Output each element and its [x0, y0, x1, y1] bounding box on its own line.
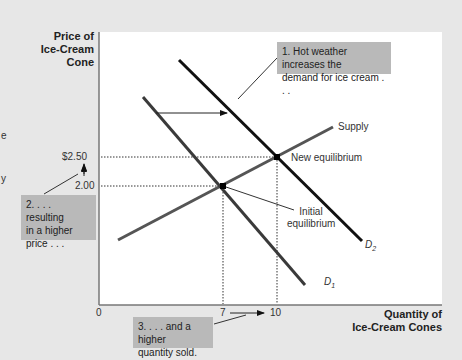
y-title-line: Ice-Cream [20, 43, 94, 56]
figure: Price of Ice-Cream Cone Quantity of Ice-… [0, 0, 462, 360]
callout-higher-quantity: 3. . . . and a higher quantity sold. [133, 317, 213, 348]
demand-curve-d1 [143, 97, 305, 285]
callout1-leader [238, 58, 277, 99]
callout2-leader [44, 174, 78, 194]
x-axis-title: Quantity of Ice-Cream Cones [330, 308, 442, 334]
edge-text-fragment: y [1, 173, 6, 184]
callout3-leader [214, 315, 246, 324]
y-tick-low: 2.00 [75, 180, 94, 191]
d1-label: D1 [324, 276, 335, 292]
origin-label: 0 [96, 307, 102, 318]
edge-text-fragment: e [1, 130, 7, 141]
y-tick-high: $2.50 [62, 151, 87, 162]
initial-equilibrium-label: Initial equilibrium [287, 206, 335, 230]
new-equilibrium-point [274, 154, 280, 160]
x-tick-low: 7 [220, 307, 226, 318]
initial-equilibrium-point [220, 183, 226, 189]
y-axis-title: Price of Ice-Cream Cone [20, 30, 94, 69]
x-title-line: Quantity of [330, 308, 442, 321]
callout-demand-increase: 1. Hot weather increases the demand for … [277, 42, 391, 74]
new-equilibrium-label: New equilibrium [291, 152, 362, 164]
x-title-line: Ice-Cream Cones [330, 321, 442, 334]
d2-label: D2 [365, 239, 376, 255]
y-title-line: Cone [20, 56, 94, 69]
y-title-line: Price of [20, 30, 94, 43]
callout-higher-price: 2. . . . resulting in a higher price . .… [21, 195, 96, 240]
supply-label: Supply [338, 121, 369, 133]
x-tick-high: 10 [270, 307, 281, 318]
